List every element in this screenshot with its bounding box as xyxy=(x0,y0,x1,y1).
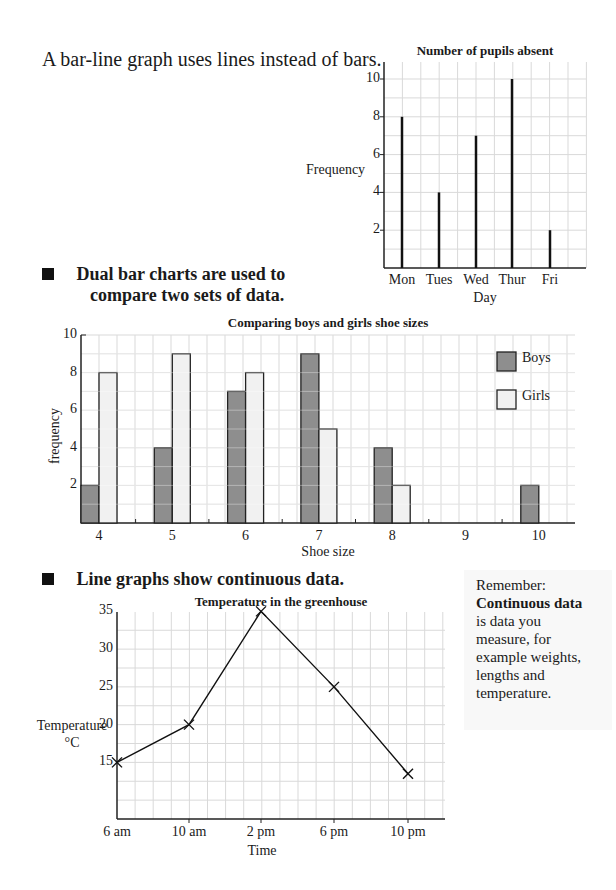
remember-term: Continuous data xyxy=(476,595,582,611)
x-tick-label: 10 pm xyxy=(378,824,438,840)
y-tick-label: 20 xyxy=(77,716,113,732)
remember-line: lengths and xyxy=(476,666,612,684)
x-tick-label: 6 am xyxy=(87,824,147,840)
remember-line: example weights, xyxy=(476,648,612,666)
y-tick-label: 25 xyxy=(77,678,113,694)
y-tick-label: 15 xyxy=(77,753,113,769)
remember-line: measure, for xyxy=(476,630,612,648)
ylabel-line2: °C xyxy=(65,735,80,750)
y-tick-label: 30 xyxy=(77,640,113,656)
remember-line: is data you xyxy=(476,612,612,630)
remember-heading: Remember: xyxy=(476,576,612,594)
x-tick-label: 2 pm xyxy=(231,824,291,840)
remember-line: temperature. xyxy=(476,684,612,702)
x-tick-label: 6 pm xyxy=(304,824,364,840)
chart3-xlabel: Time xyxy=(117,843,407,859)
remember-note: Remember: Continuous data is data youmea… xyxy=(464,570,612,730)
remember-body: is data youmeasure, forexample weights,l… xyxy=(476,612,612,702)
y-tick-label: 35 xyxy=(77,602,113,618)
x-tick-label: 10 am xyxy=(159,824,219,840)
